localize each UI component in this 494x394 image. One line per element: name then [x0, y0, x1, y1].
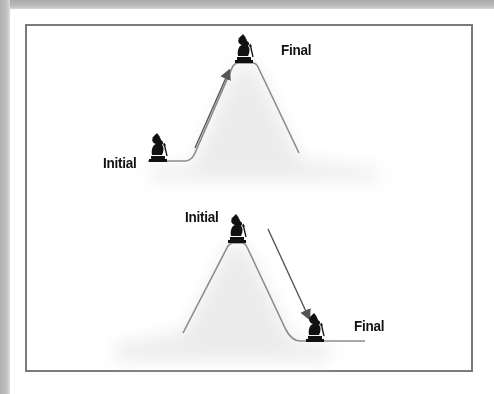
downhill-initial-label: Initial: [185, 208, 218, 225]
hiker-figure-icon: [228, 214, 246, 243]
hiker-figure-icon: [235, 34, 253, 63]
uphill-panel: [148, 34, 380, 180]
uphill-final-label: Final: [281, 41, 311, 58]
hiker-figure-icon: [149, 133, 167, 162]
downhill-panel: [115, 214, 365, 360]
energy-diagram: [0, 0, 494, 394]
downhill-final-label: Final: [354, 317, 384, 334]
hill-shadow: [115, 245, 330, 360]
uphill-initial-label: Initial: [103, 154, 136, 171]
